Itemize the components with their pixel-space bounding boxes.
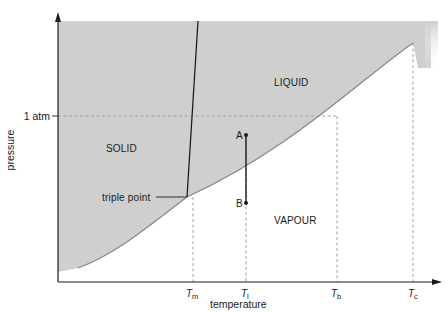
triple-point-label: triple point xyxy=(102,192,151,203)
point-a-label: A xyxy=(236,130,243,141)
solid-region-label: SOLID xyxy=(106,143,137,154)
point-b-marker xyxy=(244,201,248,205)
point-a-marker xyxy=(244,133,248,137)
vapour-region-label: VAPOUR xyxy=(274,215,317,226)
tick-t-melting: Tm xyxy=(186,288,198,301)
shaded-fade-right xyxy=(425,21,438,71)
y-axis-label: pressure xyxy=(4,129,16,170)
x-axis-arrow-icon xyxy=(432,279,442,285)
point-b-label: B xyxy=(236,198,243,209)
x-axis-label: temperature xyxy=(210,298,267,310)
y-axis-arrow-icon xyxy=(55,12,61,22)
tick-t-boiling: Tb xyxy=(331,288,341,301)
one-atm-label: 1 atm xyxy=(24,110,51,122)
phase-diagram: 1 atm pressure SOLID LIQUID VAPOUR tripl… xyxy=(0,0,448,312)
tick-t-critical: Tc xyxy=(408,288,418,301)
liquid-region-label: LIQUID xyxy=(274,77,309,88)
